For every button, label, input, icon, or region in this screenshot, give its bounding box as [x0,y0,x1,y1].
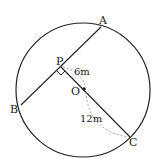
center-point [82,87,86,91]
label-c: C [129,136,137,149]
label-p: P [56,55,64,68]
diagram: A B P O C 6m 12m [0,0,156,162]
label-o: O [71,85,80,98]
measure-oc: 12m [80,113,103,124]
label-b: B [10,103,18,116]
right-angle-marker [57,71,65,75]
measure-po: 6m [74,66,90,77]
segment-pc [61,67,130,137]
label-a: A [98,14,108,27]
